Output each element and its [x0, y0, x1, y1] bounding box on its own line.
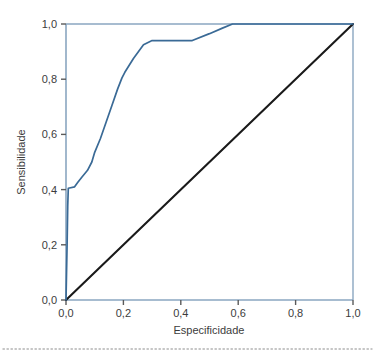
y-tick-label: 1,0 [42, 18, 57, 30]
y-tick-label: 0,4 [42, 184, 57, 196]
y-tick-label: 0,6 [42, 128, 57, 140]
x-tick-label: 0,0 [58, 307, 73, 319]
x-tick-label: 0,6 [231, 307, 246, 319]
y-axis-title: Sensibilidade [15, 129, 27, 194]
x-tick-label: 0,8 [288, 307, 303, 319]
roc-chart-canvas: 0,00,20,40,60,81,0 0,00,20,40,60,81,0 Es… [0, 0, 375, 356]
y-tick-label: 0,8 [42, 73, 57, 85]
y-tick-label: 0,2 [42, 239, 57, 251]
x-axis-title: Especificidade [174, 324, 245, 336]
x-tick-label: 0,4 [173, 307, 188, 319]
y-axis-tick-labels: 0,00,20,40,60,81,0 [42, 18, 57, 306]
x-tick-label: 0,2 [116, 307, 131, 319]
roc-chart-figure: 0,00,20,40,60,81,0 0,00,20,40,60,81,0 Es… [0, 0, 375, 356]
x-axis-tick-labels: 0,00,20,40,60,81,0 [58, 307, 360, 319]
y-tick-label: 0,0 [42, 294, 57, 306]
x-tick-label: 1,0 [345, 307, 360, 319]
